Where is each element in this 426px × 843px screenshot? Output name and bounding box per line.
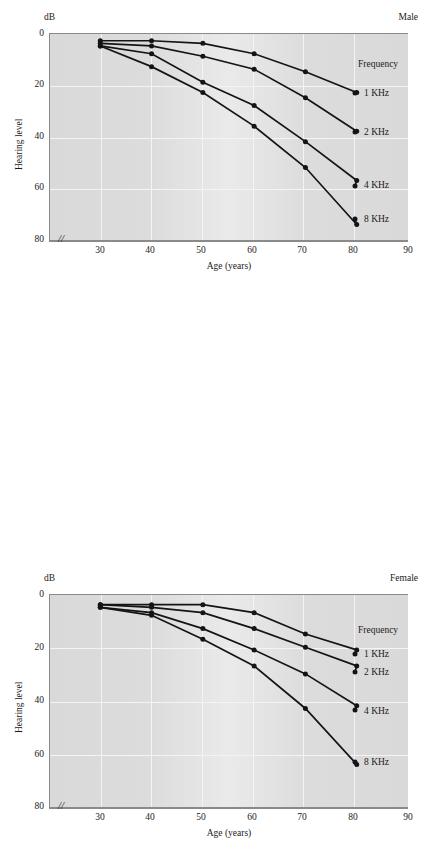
data-point [252,626,257,631]
data-point [303,671,308,676]
data-point [149,51,154,56]
data-point [252,51,257,56]
y-axis-title-female: Hearing level [14,682,24,733]
x-tick-30-female: 30 [88,812,112,822]
x-tick-40-female: 40 [138,812,162,822]
data-point [200,602,205,607]
y-tick-60: 60 [22,182,44,192]
x-tick-40: 40 [138,245,162,255]
series-line [100,46,356,181]
data-point [303,645,308,650]
data-point [252,124,257,129]
data-point [303,95,308,100]
series-4-khz [98,43,359,188]
legend-item-8khz-female: 8 KHz [364,757,389,767]
series-layer-female [0,285,426,843]
data-point [149,613,154,618]
data-point [303,69,308,74]
y-tick-20-female: 20 [22,642,44,652]
x-tick-90: 90 [396,245,420,255]
legend-item-2khz-female: 2 KHz [364,667,389,677]
x-tick-90-female: 90 [396,812,420,822]
y-axis-title-male: Hearing level [14,119,24,170]
series-line [100,607,356,706]
series-8-khz [98,43,359,227]
legend-marker [353,670,358,675]
data-point [252,67,257,72]
series-line [100,43,356,131]
series-line [100,46,356,225]
legend-item-1khz-male: 1 KHz [364,88,389,98]
x-axis-title-female: Age (years) [159,828,299,838]
legend-marker [353,91,358,96]
y-tick-60-female: 60 [22,749,44,759]
x-tick-50: 50 [189,245,213,255]
y-tick-20: 20 [22,79,44,89]
x-tick-70: 70 [290,245,314,255]
legend-item-4khz-male: 4 KHz [364,180,389,190]
legend-title-female: Frequency [358,625,398,635]
data-point [149,64,154,69]
data-point [98,605,103,610]
legend-marker [353,130,358,135]
y-tick-0: 0 [22,28,44,38]
data-point [200,54,205,59]
x-tick-60: 60 [240,245,264,255]
data-point [200,90,205,95]
x-tick-70-female: 70 [290,812,314,822]
axis-break-mark-female: // [58,799,64,811]
series-line [100,41,356,93]
data-point [303,706,308,711]
legend-item-4khz-female: 4 KHz [364,706,389,716]
chart-panel-female: dB Female // 0 20 40 60 80 30 40 50 60 7… [0,285,426,571]
data-point [149,43,154,48]
series-line [100,607,356,764]
legend-item-8khz-male: 8 KHz [364,214,389,224]
data-point [252,647,257,652]
data-point [200,626,205,631]
y-tick-40-female: 40 [22,695,44,705]
data-point [252,103,257,108]
x-axis-title-male: Age (years) [159,261,299,271]
legend-title-male: Frequency [358,59,398,69]
y-tick-80-female: 80 [22,801,44,811]
data-point [200,610,205,615]
legend-marker [353,652,358,657]
chart-panel-male: dB Male // 0 20 40 60 80 30 40 50 60 70 … [0,0,426,285]
data-point [252,663,257,668]
x-tick-80: 80 [341,245,365,255]
legend-item-1khz-female: 1 KHz [364,649,389,659]
series-2-khz [98,41,359,135]
data-point [303,139,308,144]
y-tick-0-female: 0 [22,589,44,599]
series-1-khz [98,38,359,95]
legend-marker [353,708,358,713]
data-point [303,631,308,636]
y-tick-80: 80 [22,234,44,244]
y-tick-40: 40 [22,131,44,141]
x-tick-80-female: 80 [341,812,365,822]
legend-marker [353,184,358,189]
legend-marker [353,217,358,222]
data-point [149,605,154,610]
x-tick-60-female: 60 [240,812,264,822]
data-point [149,38,154,43]
data-point [200,637,205,642]
series-8-khz [98,605,359,767]
data-point [98,43,103,48]
data-point [303,165,308,170]
data-point [252,610,257,615]
x-tick-50-female: 50 [189,812,213,822]
legend-item-2khz-male: 2 KHz [364,127,389,137]
axis-break-mark: // [58,232,64,244]
x-tick-30: 30 [88,245,112,255]
legend-marker [353,760,358,765]
data-point [200,41,205,46]
data-point [200,80,205,85]
